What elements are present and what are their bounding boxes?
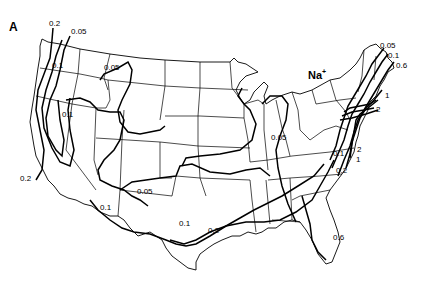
isopleth-label: 0.2	[208, 226, 220, 235]
isopleth-labels: 0.2 0.05 0.1 0.05 0.1 0.2 0.1 0.05 0.1 0…	[20, 19, 408, 242]
isopleth-label: 0.05	[271, 133, 287, 142]
isopleth-label: 0.2	[336, 166, 348, 175]
panel-label: A	[9, 20, 18, 34]
isopleth-label: 0.1	[52, 61, 64, 70]
species-base: Na	[308, 69, 323, 81]
isopleth-interior-0.1	[66, 98, 148, 206]
isopleth-label: 0.6	[396, 61, 408, 70]
isopleth-central-0.05	[182, 88, 256, 166]
isopleth-label: 0.1	[388, 51, 400, 60]
isopleth-ne-0.05	[330, 48, 384, 160]
species-label: Na+	[308, 68, 326, 81]
isopleth-label: 0.1	[62, 110, 74, 119]
isopleth-label: 0.05	[104, 63, 120, 72]
isopleth-label: 0.6	[333, 233, 345, 242]
isopleth-label: 2	[357, 145, 362, 154]
isopleth-label: 0.1	[100, 203, 112, 212]
isopleth-label: 0.1	[333, 149, 345, 158]
isopleth-label: 2	[376, 105, 381, 114]
isopleth-label: 0.2	[49, 19, 61, 28]
isopleth-label: 0.05	[71, 27, 87, 36]
species-charge: +	[322, 68, 326, 75]
isopleth-nw-0.2	[36, 28, 53, 180]
isopleth-label: 0.05	[380, 41, 396, 50]
isopleth-label: 0.05	[137, 187, 153, 196]
isopleth-label: 1	[356, 155, 361, 164]
isopleth-label: 0.2	[20, 174, 32, 183]
na-isopleth-map: A Na+	[0, 0, 421, 287]
isopleth-label: 0.1	[179, 219, 191, 228]
isopleth-nw-0.05	[46, 36, 70, 156]
isopleth-label: 1	[385, 91, 390, 100]
